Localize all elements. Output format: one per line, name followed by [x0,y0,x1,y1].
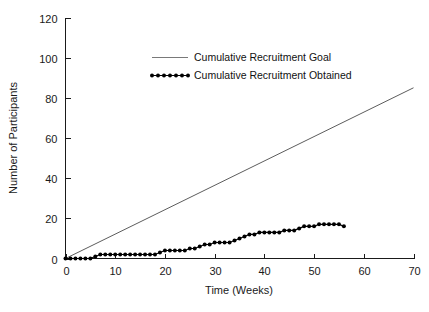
x-axis-title: Time (Weeks) [205,284,273,296]
obtained-data-point [302,224,306,228]
obtained-data-point [257,230,261,234]
obtained-data-point [68,257,72,261]
obtained-data-point [242,234,246,238]
x-tick-label: 70 [408,265,420,277]
obtained-data-point [128,252,132,256]
obtained-data-point [337,222,341,226]
y-tick-label: 100 [39,53,57,65]
obtained-data-point [297,226,301,230]
obtained-data-point [118,252,122,256]
obtained-data-point [78,257,82,261]
legend-swatch-marker [150,74,154,78]
obtained-data-point [327,222,331,226]
obtained-data-point [188,246,192,250]
obtained-data-point [123,252,127,256]
obtained-data-point [83,257,87,261]
obtained-data-point [133,252,137,256]
obtained-data-point [332,222,336,226]
legend-label-goal: Cumulative Recruitment Goal [194,51,331,63]
x-tick-label: 0 [63,265,69,277]
obtained-data-point [238,236,242,240]
obtained-data-point [173,248,177,252]
obtained-data-point [88,257,92,261]
y-tick-label: 80 [45,93,57,105]
x-tick-label: 10 [109,265,121,277]
legend-swatch-marker [156,74,160,78]
legend-label-obtained: Cumulative Recruitment Obtained [194,69,352,81]
obtained-data-point [272,230,276,234]
obtained-data-point [98,252,102,256]
obtained-data-point [153,252,157,256]
y-tick-label: 60 [45,133,57,145]
x-tick-label: 30 [209,265,221,277]
y-tick-label: 40 [45,173,57,185]
legend-swatch-marker [174,74,178,78]
obtained-data-point [312,224,316,228]
obtained-data-point [282,228,286,232]
obtained-data-point [143,252,147,256]
x-tick-label: 60 [358,265,370,277]
obtained-data-point [223,240,227,244]
obtained-data-point [322,222,326,226]
legend-swatch-marker [186,74,190,78]
obtained-data-point [203,242,207,246]
obtained-data-point [247,232,251,236]
obtained-data-point [233,238,237,242]
obtained-data-point [138,252,142,256]
obtained-data-point [183,248,187,252]
legend-swatch-marker [168,74,172,78]
legend-swatch-marker [162,74,166,78]
obtained-data-point [218,240,222,244]
y-axis-title: Number of Participants [7,82,19,194]
obtained-data-point [317,222,321,226]
obtained-data-point [158,250,162,254]
x-tick-label: 40 [258,265,270,277]
obtained-data-point [73,257,77,261]
y-tick-label: 0 [51,254,57,266]
obtained-data-point [292,228,296,232]
y-tick-label: 20 [45,213,57,225]
obtained-data-point [213,240,217,244]
obtained-data-point [342,224,346,228]
obtained-data-point [267,230,271,234]
obtained-data-point [307,224,311,228]
obtained-data-point [103,252,107,256]
obtained-data-point [208,242,212,246]
obtained-data-point [252,232,256,236]
chart-canvas: 020406080100120 Number of Participants 0… [0,0,429,312]
obtained-data-point [113,252,117,256]
y-tick-label: 120 [39,13,57,25]
obtained-data-point [93,254,97,258]
obtained-data-point [163,248,167,252]
obtained-data-point [64,257,68,261]
obtained-data-point [287,228,291,232]
x-tick-label: 20 [159,265,171,277]
obtained-data-point [228,240,232,244]
obtained-data-point [108,252,112,256]
obtained-data-point [193,246,197,250]
recruitment-chart: 020406080100120 Number of Participants 0… [0,0,429,312]
x-tick-label: 50 [308,265,320,277]
obtained-data-point [148,252,152,256]
obtained-data-point [198,244,202,248]
obtained-data-point [168,248,172,252]
legend-swatch-marker [180,74,184,78]
obtained-data-point [277,230,281,234]
obtained-data-point [262,230,266,234]
obtained-data-point [178,248,182,252]
